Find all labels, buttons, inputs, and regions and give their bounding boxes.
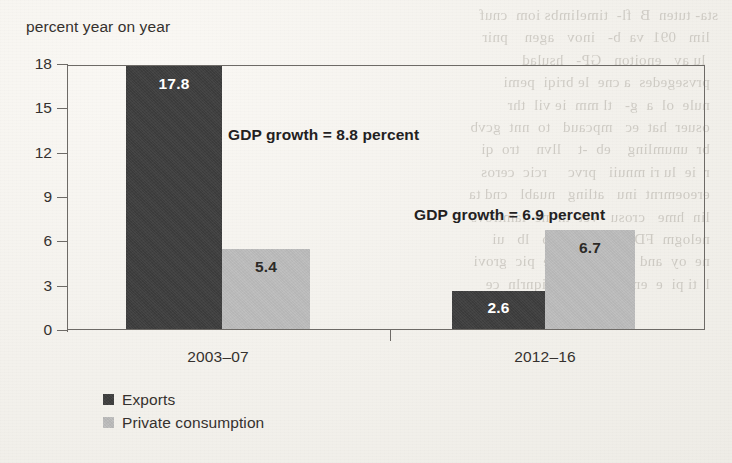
y-tick-6: [57, 241, 68, 242]
y-tick-label-15: 15: [6, 99, 52, 117]
legend-item-private-consumption[interactable]: Private consumption: [103, 411, 264, 434]
annotation-gdp-growth-2012-16: GDP growth = 6.9 percent: [414, 206, 605, 224]
bar-texture: [126, 66, 222, 329]
bar-value-5-4: 5.4: [222, 258, 310, 276]
bar-value-17-8: 17.8: [126, 75, 222, 93]
chart-title: percent year on year: [26, 18, 170, 36]
y-tick-label-6: 6: [6, 232, 52, 250]
bar-exports-2012-16[interactable]: 2.6: [452, 291, 545, 329]
scanned-page: sta- tuten B fl- timelimbs iom cnuf lim …: [0, 0, 732, 463]
y-tick-15: [57, 108, 68, 109]
y-tick-label-0: 0: [6, 321, 52, 339]
legend-item-exports[interactable]: Exports: [103, 388, 264, 411]
legend-label-exports: Exports: [122, 391, 175, 409]
y-tick-label-18: 18: [6, 55, 52, 73]
swatch-texture: [103, 417, 114, 428]
bar-private-consumption-2012-16[interactable]: 6.7: [545, 230, 635, 329]
bar-private-consumption-2003-07[interactable]: 5.4: [222, 249, 310, 329]
bar-value-2-6: 2.6: [452, 299, 545, 317]
x-axis-label-2003-07: 2003–07: [118, 348, 318, 366]
y-tick-18: [57, 64, 68, 65]
bar-exports-2003-07[interactable]: 17.8: [126, 66, 222, 329]
y-tick-label-12: 12: [6, 144, 52, 162]
x-tick-separator: [390, 330, 391, 341]
y-tick-0: [57, 330, 68, 331]
y-tick-3: [57, 286, 68, 287]
y-tick-label-3: 3: [6, 277, 52, 295]
legend-swatch-private-consumption-icon: [103, 417, 114, 428]
legend-swatch-exports-icon: [103, 394, 114, 405]
legend: Exports Private consumption: [103, 388, 264, 434]
bar-value-6-7: 6.7: [545, 239, 635, 257]
y-tick-12: [57, 153, 68, 154]
plot-area: 17.8 5.4 2.6 6.7: [68, 65, 705, 330]
legend-label-private-consumption: Private consumption: [122, 414, 264, 432]
y-tick-label-9: 9: [6, 188, 52, 206]
annotation-gdp-growth-2003-07: GDP growth = 8.8 percent: [228, 126, 419, 144]
x-axis-label-2012-16: 2012–16: [445, 348, 645, 366]
y-tick-9: [57, 197, 68, 198]
swatch-texture: [103, 394, 114, 405]
